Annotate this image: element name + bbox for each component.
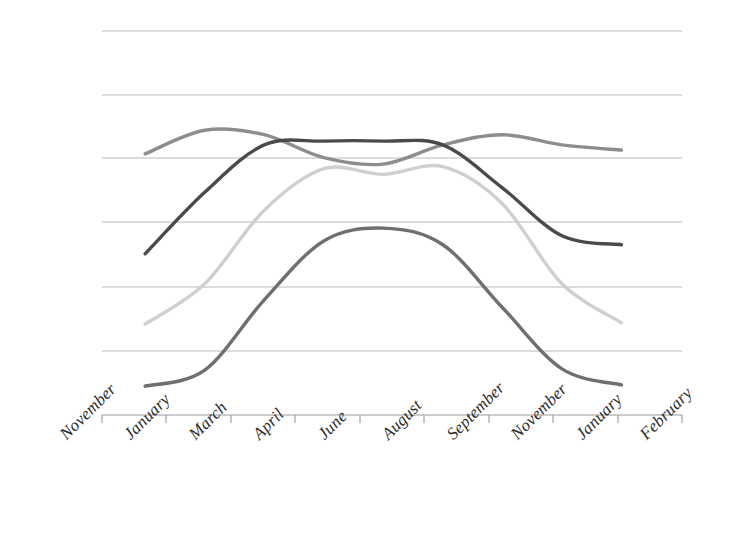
chart-page: NovemberJanuaryMarchAprilJuneAugustSepte… bbox=[0, 0, 735, 534]
gridlines bbox=[102, 31, 682, 351]
line-series-1 bbox=[145, 129, 621, 165]
line-chart bbox=[0, 0, 735, 534]
line-series-3 bbox=[145, 166, 621, 325]
line-series-2 bbox=[145, 140, 621, 254]
series-lines bbox=[145, 129, 621, 386]
line-series-4 bbox=[145, 228, 621, 386]
